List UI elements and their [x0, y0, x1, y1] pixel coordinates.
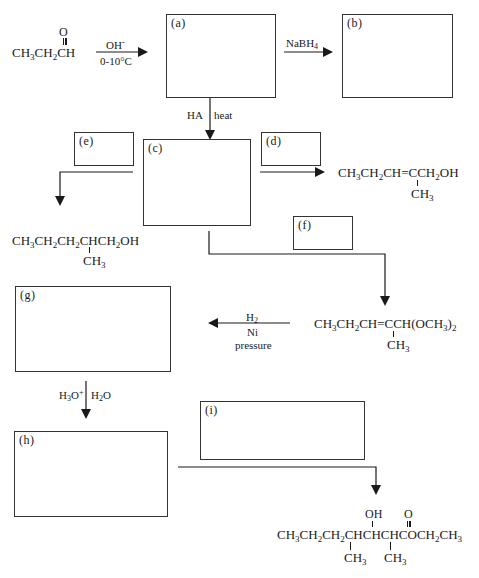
- product-e-methyl-branch: CH3: [83, 254, 106, 267]
- box-label-g: (g): [20, 288, 36, 303]
- carbonyl-oxygen: O: [59, 26, 68, 38]
- product-i-branch2-bond: [390, 542, 391, 550]
- answer-box-f[interactable]: (f): [293, 216, 353, 250]
- product-i-methyl-branch-1: CH3: [344, 551, 367, 564]
- box-label-f: (f): [298, 218, 312, 233]
- box-label-e: (e): [79, 134, 94, 149]
- answer-box-d[interactable]: (d): [261, 132, 321, 166]
- box-label-b: (b): [347, 16, 363, 31]
- product-f-methyl-branch: CH3: [387, 338, 410, 351]
- reagent-pressure: pressure: [235, 340, 272, 351]
- reagent-nickel: Ni: [247, 327, 258, 338]
- product-i-branch1-bond: [350, 542, 351, 550]
- carbonyl-double-bond: [63, 38, 65, 45]
- product-i-carbonyl-oxygen: O: [404, 508, 413, 520]
- answer-box-g[interactable]: (g): [15, 286, 171, 372]
- box-label-a: (a): [171, 16, 186, 31]
- reagent-hydroxide: OH-: [106, 40, 125, 51]
- product-i-formula: CH3CH2CH2CHCHCHCOCH2CH3: [277, 528, 462, 541]
- reagent-hydronium: H3O+: [59, 390, 83, 401]
- product-f-formula: CH3CH2CH=CCH(OCH3)2: [314, 317, 456, 330]
- answer-box-i[interactable]: (i): [200, 401, 365, 460]
- arrow-h-to-i-product: [178, 467, 376, 493]
- starting-material-formula: CH3CH2CH: [12, 46, 75, 59]
- reagent-nabh4: NaBH4: [286, 38, 318, 49]
- box-label-c: (c): [148, 141, 163, 156]
- box-label-i: (i): [205, 403, 218, 418]
- answer-box-e[interactable]: (e): [74, 132, 134, 166]
- answer-box-a[interactable]: (a): [166, 14, 276, 98]
- reagent-temperature: 0-10°C: [100, 56, 132, 67]
- reagent-heat: heat: [214, 110, 232, 121]
- reagent-acid: HA: [187, 110, 203, 121]
- product-i-methyl-branch-2: CH3: [384, 551, 407, 564]
- product-d-formula: CH3CH2CH=CCH2OH: [338, 166, 459, 179]
- reagent-water: H2O: [91, 390, 111, 401]
- answer-box-h[interactable]: (h): [14, 431, 168, 517]
- answer-box-b[interactable]: (b): [342, 14, 453, 98]
- answer-box-c[interactable]: (c): [143, 139, 251, 226]
- product-d-methyl-branch: CH3: [411, 187, 434, 200]
- arrow-c-to-e-product: [60, 172, 133, 204]
- product-e-formula: CH3CH2CH2CHCH2OH: [12, 234, 139, 247]
- reagent-hydrogen: H2: [246, 312, 258, 323]
- product-i-hydroxyl: OH: [365, 508, 382, 520]
- box-label-d: (d): [266, 134, 282, 149]
- box-label-h: (h): [19, 433, 35, 448]
